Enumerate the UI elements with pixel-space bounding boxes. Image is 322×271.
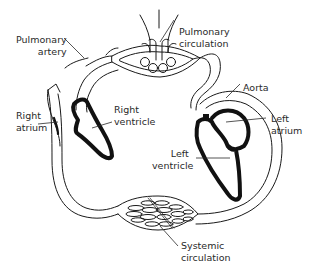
circulation-diagram: Pulmonary artery Pulmonary circulation A… xyxy=(0,0,322,271)
label-pulmonary-circulation-line1: Pulmonary xyxy=(179,26,230,38)
label-aorta-line1: Aorta xyxy=(243,82,269,94)
label-left-ventricle: Left ventricle xyxy=(152,148,193,172)
label-left-ventricle-line1: Left xyxy=(152,148,193,160)
label-pulmonary-circulation: Pulmonary circulation xyxy=(179,26,230,50)
right-ventricle-wall xyxy=(73,100,112,159)
systemic-venous-return xyxy=(48,84,118,218)
label-pulmonary-circulation-line2: circulation xyxy=(179,38,230,50)
label-right-ventricle-line2: ventricle xyxy=(114,116,155,128)
systemic-capillary-bed xyxy=(118,196,198,230)
right-atrium-wall xyxy=(54,118,58,134)
label-right-atrium-line1: Right xyxy=(16,110,47,122)
left-atrium-top xyxy=(203,114,209,119)
label-pulmonary-artery-line2: artery xyxy=(16,46,67,58)
label-systemic-circulation-line2: circulation xyxy=(181,252,230,264)
label-systemic-circulation: Systemic circulation xyxy=(181,240,230,264)
label-pulmonary-artery-line1: Pulmonary xyxy=(16,34,67,46)
label-right-atrium-line2: atrium xyxy=(16,122,47,134)
label-pulmonary-artery: Pulmonary artery xyxy=(16,34,67,58)
label-left-atrium: Left atrium xyxy=(271,113,302,137)
label-left-ventricle-line2: ventricle xyxy=(152,160,193,172)
label-left-atrium-line1: Left xyxy=(271,113,302,125)
label-left-atrium-line2: atrium xyxy=(271,125,302,137)
leader-pulmonary-circulation xyxy=(160,20,174,42)
label-systemic-circulation-line1: Systemic xyxy=(181,240,230,252)
label-right-ventricle-line1: Right xyxy=(114,104,155,116)
leader-pulmonary-artery xyxy=(64,38,84,58)
label-right-ventricle: Right ventricle xyxy=(114,104,155,128)
label-right-atrium: Right atrium xyxy=(16,110,47,134)
left-heart-wall xyxy=(197,111,249,200)
label-aorta: Aorta xyxy=(243,82,269,94)
